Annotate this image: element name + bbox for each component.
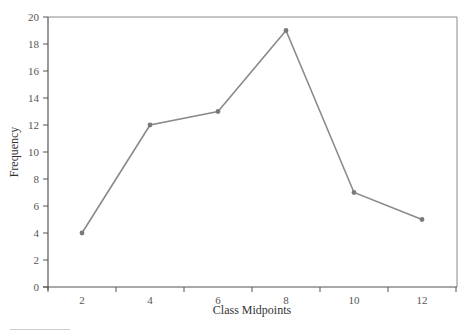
y-tick-label: 12 [28,119,39,131]
y-tick-label: 2 [34,254,40,266]
plot-frame [48,17,457,287]
y-tick-label: 18 [28,38,40,50]
data-point-marker [420,217,425,222]
x-axis-title: Class Midpoints [213,303,292,317]
y-tick-label: 6 [34,200,40,212]
y-tick-label: 4 [34,227,40,239]
frequency-polygon-chart: 02468101214161820 24681012 Class Midpoin… [0,0,463,332]
footer-divider [10,329,70,330]
y-tick-label: 14 [28,92,40,104]
y-axis-title: Frequency [7,127,21,178]
data-point-marker [284,28,289,33]
x-tick-label: 4 [147,294,153,306]
x-tick-label: 10 [349,294,361,306]
y-tick-label: 20 [28,11,40,23]
y-tick-label: 8 [34,173,40,185]
x-tick-label: 2 [79,294,85,306]
y-tick-label: 10 [28,146,40,158]
y-axis: 02468101214161820 [28,11,48,293]
y-tick-label: 0 [34,281,40,293]
data-point-marker [148,123,153,128]
y-tick-label: 16 [28,65,40,77]
data-point-marker [352,190,357,195]
x-tick-label: 12 [417,294,428,306]
data-point-marker [80,231,85,236]
data-point-marker [216,109,221,114]
data-series [80,28,425,235]
series-line [82,31,422,234]
